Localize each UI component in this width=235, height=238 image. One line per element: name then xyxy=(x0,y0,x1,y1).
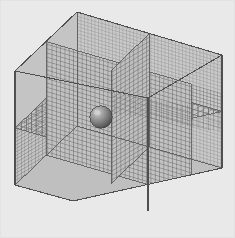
figure-canvas: Wireframe cube containing three mutually… xyxy=(0,0,235,238)
scene-svg xyxy=(0,0,235,238)
center-sphere xyxy=(90,106,112,128)
sphere-specular-highlight xyxy=(94,110,101,115)
